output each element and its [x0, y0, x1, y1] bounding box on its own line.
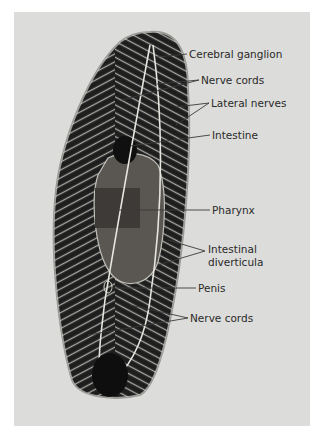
- label-nerve-cords-bottom: Nerve cords: [190, 312, 253, 324]
- flatworm-specimen: [0, 0, 325, 437]
- label-penis: Penis: [198, 282, 225, 294]
- label-pharynx: Pharynx: [212, 204, 255, 216]
- label-intestinal-diverticula-line1: Intestinal: [208, 243, 257, 255]
- label-intestine: Intestine: [212, 129, 258, 141]
- label-intestinal-diverticula-line2: diverticula: [208, 256, 263, 268]
- label-cerebral-ganglion: Cerebral ganglion: [189, 48, 282, 60]
- label-lateral-nerves: Lateral nerves: [211, 97, 286, 109]
- label-nerve-cords-top: Nerve cords: [201, 74, 264, 86]
